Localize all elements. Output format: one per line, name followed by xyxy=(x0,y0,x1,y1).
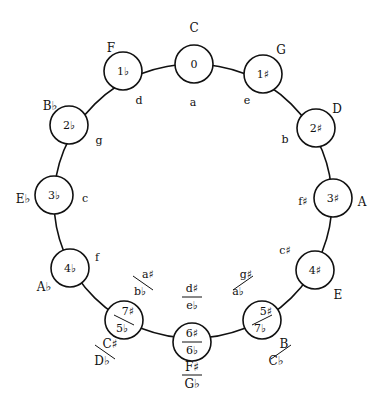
minor-key-label-top: a♯ xyxy=(142,268,154,281)
major-key-label-bottom: D♭ xyxy=(94,354,109,368)
major-key-label: C xyxy=(189,21,198,35)
minor-key-label-bottom: e♭ xyxy=(186,299,198,312)
major-key-label: BC♭ xyxy=(269,337,291,368)
major-key-label: E♭ xyxy=(16,192,30,206)
key-node-n1s: 1♯Ge xyxy=(244,43,286,108)
minor-key-label: b xyxy=(281,133,288,146)
minor-key-label: f xyxy=(95,251,100,264)
key-node-n4f: 4♭A♭f xyxy=(36,249,100,294)
major-key-label: G xyxy=(276,43,286,57)
key-node-n7s: 7♯5♭C♯D♭a♯b♭ xyxy=(94,268,154,368)
signature-bottom: 7♭ xyxy=(254,322,266,335)
minor-key-label-bottom: a♭ xyxy=(232,285,244,298)
major-key-label: C♯D♭ xyxy=(94,337,117,368)
signature-label-bottom: 6♭ xyxy=(186,344,198,357)
signature-label: 2♭ xyxy=(63,119,75,132)
minor-key-label: c♯ xyxy=(279,244,290,257)
minor-key-label: a xyxy=(190,96,197,109)
key-node-n6: 6♯6♭F♯G♭d♯e♭ xyxy=(173,282,211,391)
signature-label: 1♯ xyxy=(257,68,269,81)
signature-label: 3♭ xyxy=(48,189,60,202)
minor-key-label: d♯e♭ xyxy=(182,282,202,312)
major-key-label-top: B xyxy=(280,337,289,351)
signature-top: 7♯ xyxy=(122,305,134,318)
major-key-label-bottom: C♭ xyxy=(269,354,284,368)
minor-key-label-top: d♯ xyxy=(186,282,198,295)
minor-key-label: d xyxy=(135,94,142,107)
minor-key-label-bottom: b♭ xyxy=(134,285,146,298)
major-key-label: A♭ xyxy=(36,280,51,294)
key-node-n5s: 5♯7♭BC♭g♯a♭ xyxy=(232,268,291,368)
minor-key-label: g♯a♭ xyxy=(232,268,253,298)
minor-key-label: a♯b♭ xyxy=(133,268,154,298)
circle-of-fifths-diagram: 0Ca1♯Ge2♯Db3♯Af♯4♯Ec♯5♯7♭BC♭g♯a♭6♯6♭F♯G♭… xyxy=(0,0,381,408)
major-key-label: F xyxy=(107,41,115,55)
major-key-label-top: F♯ xyxy=(185,360,199,374)
key-node-n3s: 3♯Af♯ xyxy=(298,179,366,217)
major-key-label-top: C♯ xyxy=(103,337,118,351)
signature-bottom: 5♭ xyxy=(116,322,128,335)
signature-label: 2♯ xyxy=(310,122,322,135)
key-nodes: 0Ca1♯Ge2♯Db3♯Af♯4♯Ec♯5♯7♭BC♭g♯a♭6♯6♭F♯G♭… xyxy=(16,21,367,391)
key-node-n2s: 2♯Db xyxy=(281,102,341,148)
key-node-n0: 0Ca xyxy=(175,21,213,110)
diagram-canvas: 0Ca1♯Ge2♯Db3♯Af♯4♯Ec♯5♯7♭BC♭g♯a♭6♯6♭F♯G♭… xyxy=(0,0,381,408)
signature-label: 1♭ xyxy=(117,65,129,78)
signature-label: 3♯ xyxy=(327,192,339,205)
major-key-label: F♯G♭ xyxy=(182,360,202,391)
minor-key-label-top: g♯ xyxy=(240,268,252,281)
minor-key-label: c xyxy=(82,192,88,205)
key-node-n1f: 1♭Fd xyxy=(104,41,143,108)
minor-key-label: f♯ xyxy=(298,195,307,208)
key-node-n4s: 4♯Ec♯ xyxy=(279,244,342,302)
major-key-label-bottom: G♭ xyxy=(184,377,199,391)
signature-label-top: 6♯ xyxy=(186,327,198,340)
major-key-label: E xyxy=(334,288,343,302)
major-key-label: D xyxy=(332,102,342,116)
major-key-label: A xyxy=(357,195,367,209)
minor-key-label: g xyxy=(95,134,102,147)
signature-label: 4♭ xyxy=(64,262,76,275)
major-key-label: B♭ xyxy=(43,99,57,113)
signature-label: 0 xyxy=(191,58,198,71)
key-node-n3f: 3♭E♭c xyxy=(16,176,88,214)
minor-key-label: e xyxy=(244,94,251,107)
signature-label: 4♯ xyxy=(309,264,321,277)
